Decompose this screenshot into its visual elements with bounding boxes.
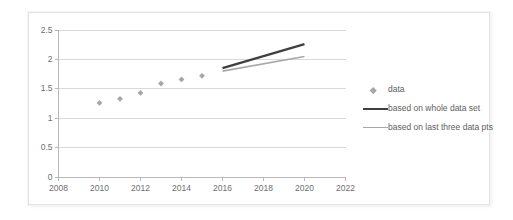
tick-marks-group [55,30,346,181]
x-axis-tick-label: 2018 [244,184,284,193]
x-axis-tick-label: 2020 [285,184,325,193]
legend-item-label: based on whole data set [388,104,480,113]
gridlines-group [59,30,346,148]
y-axis-tick-label: 2.5 [17,26,53,35]
x-axis-tick-label: 2016 [203,184,243,193]
data-point-marker [117,96,123,102]
data-point-marker [199,73,205,79]
legend-item-last-three-pts: based on last three data pts [362,118,500,137]
legend-item-whole-data-set: based on whole data set [362,99,500,118]
y-axis-tick-label: 1 [17,114,53,123]
y-axis-tick-label: 0.5 [17,143,53,152]
x-axis-tick-label: 2012 [121,184,161,193]
x-axis-tick-label: 2008 [39,184,79,193]
series-scatter-data [97,73,205,106]
x-axis-tick-label: 2010 [80,184,120,193]
y-axis-tick-label: 2 [17,55,53,64]
y-axis-tick-label: 0 [17,173,53,182]
chart-figure: 00.511.522.5 200820102012201420162018202… [0,0,513,220]
dark-line-swatch-icon [362,103,388,115]
data-point-marker [138,90,144,96]
data-point-marker [158,81,164,87]
x-axis-tick-label: 2022 [326,184,366,193]
legend-item-label: data [388,85,405,94]
data-point-marker [179,76,185,82]
legend-item-label: based on last three data pts [388,123,493,132]
y-axis-tick-label: 1.5 [17,84,53,93]
data-point-marker [97,100,103,106]
legend-item-data: data [362,80,500,99]
x-axis-tick-label: 2014 [162,184,202,193]
chart-legend: data based on whole data set based on la… [362,80,500,137]
diamond-marker-icon [362,84,388,96]
gray-line-swatch-icon [362,122,388,134]
